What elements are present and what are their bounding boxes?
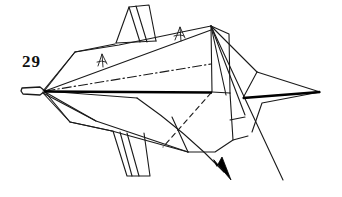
- paper-background: [0, 0, 342, 197]
- origami-figure: 29: [0, 0, 342, 197]
- origami-diagram-canvas: [0, 0, 342, 197]
- step-number-label: 29: [22, 52, 41, 72]
- center-spine-line: [44, 92, 212, 93]
